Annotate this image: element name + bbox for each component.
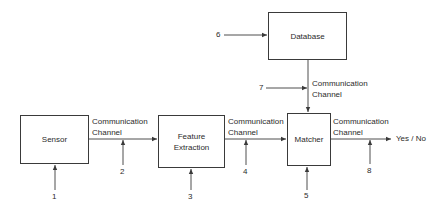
channel-label-database-matcher: Communication Channel: [312, 78, 368, 100]
connector-lines: [0, 0, 442, 213]
attack-point-2: 2: [120, 167, 124, 177]
matcher-label: Matcher: [295, 134, 324, 145]
output-label: Yes / No: [396, 134, 426, 144]
attack-point-1: 1: [52, 192, 56, 202]
attack-point-4: 4: [243, 167, 247, 177]
attack-point-7: 7: [259, 83, 263, 93]
database-label: Database: [290, 31, 324, 42]
channel-label-sensor-feature: Communication Channel: [92, 116, 148, 138]
sensor-block: Sensor: [20, 115, 89, 164]
sensor-label: Sensor: [42, 134, 67, 145]
channel-label-matcher-output: Communication Channel: [333, 116, 389, 138]
attack-point-6: 6: [216, 30, 220, 40]
feature-extraction-label: Feature Extraction: [174, 131, 210, 153]
biometric-system-diagram: Sensor Feature Extraction Matcher Databa…: [0, 0, 442, 213]
attack-point-3: 3: [188, 192, 192, 202]
attack-point-8: 8: [367, 166, 371, 176]
matcher-block: Matcher: [287, 113, 331, 166]
database-block: Database: [268, 12, 347, 60]
attack-point-5: 5: [304, 191, 308, 201]
feature-extraction-block: Feature Extraction: [158, 115, 225, 168]
channel-label-feature-matcher: Communication Channel: [228, 116, 284, 138]
